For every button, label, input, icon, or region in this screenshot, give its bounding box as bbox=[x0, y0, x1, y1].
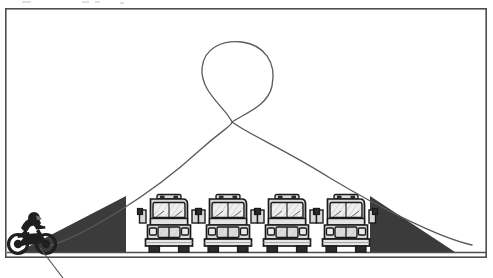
top-edge-artifact-2 bbox=[82, 1, 89, 3]
top-edge-artifact-4 bbox=[120, 2, 124, 4]
figure-canvas bbox=[0, 0, 493, 278]
illustration-svg bbox=[0, 0, 493, 278]
top-edge-artifact-3 bbox=[95, 1, 100, 3]
top-edge-artifact-1 bbox=[22, 1, 31, 3]
